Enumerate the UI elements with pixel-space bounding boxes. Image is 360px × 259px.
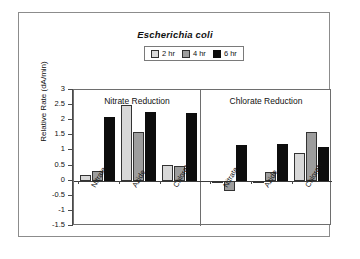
y-axis-tick-label: 3 (39, 85, 65, 93)
bar (145, 112, 157, 181)
y-axis-tick-label: -1 (39, 206, 65, 214)
bar (236, 145, 248, 181)
legend-item: 4 hr (182, 50, 206, 58)
zero-baseline (74, 181, 332, 182)
y-axis-tick-label: 0.5 (39, 161, 65, 169)
legend-swatch-2hr (151, 50, 159, 58)
plot-area: Nitrate Reduction Chlorate Reduction Nit… (73, 89, 331, 225)
y-axis-tick-label: -0.5 (39, 191, 65, 199)
legend-label: 6 hr (224, 50, 237, 58)
bar (294, 153, 306, 181)
x-axis-tick (210, 181, 211, 184)
figure-container: Escherichia coli 2 hr 4 hr 6 hr Relative… (18, 12, 330, 237)
y-axis-tick-label: 2 (39, 115, 65, 123)
y-axis-tick-label: 0 (39, 176, 65, 184)
y-axis-tick-label: 1 (39, 145, 65, 153)
x-axis-tick (251, 181, 252, 184)
bar (162, 165, 174, 181)
bar (80, 175, 92, 180)
x-axis-tick (119, 181, 120, 184)
y-axis-tick (68, 225, 73, 226)
panel-title-chlorate-reduction: Chlorate Reduction (201, 96, 331, 106)
legend-item: 6 hr (213, 50, 237, 58)
bar (121, 105, 133, 181)
bar (277, 144, 289, 180)
y-axis-tick-label: -1.5 (39, 221, 65, 229)
legend-item: 2 hr (151, 50, 175, 58)
page-title: Escherichia coli (19, 29, 331, 40)
legend-swatch-4hr (182, 50, 190, 58)
legend-swatch-6hr (213, 50, 221, 58)
y-axis-tick-label: 2.5 (39, 100, 65, 108)
x-axis-tick (78, 181, 79, 184)
legend-label: 2 hr (162, 50, 175, 58)
x-axis-tick (160, 181, 161, 184)
x-axis-tick (292, 181, 293, 184)
legend: 2 hr 4 hr 6 hr (144, 46, 244, 61)
panel-divider (200, 90, 201, 226)
y-axis-tick-label: 1.5 (39, 130, 65, 138)
legend-label: 4 hr (193, 50, 206, 58)
panel-title-nitrate-reduction: Nitrate Reduction (74, 96, 200, 106)
